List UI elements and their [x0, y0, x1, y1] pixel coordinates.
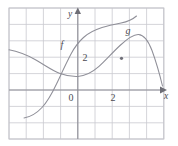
x-axis-label: x: [163, 91, 169, 101]
intersection-point-marker: [120, 57, 123, 60]
graph-canvas: y x 0 2 2 f g: [0, 0, 178, 146]
origin-label: 0: [69, 92, 74, 103]
math-graph-figure: y x 0 2 2 f g: [0, 0, 178, 146]
curve-g: [24, 16, 137, 118]
y-axis-label: y: [67, 9, 73, 19]
x-axis-tick-label-2: 2: [111, 92, 116, 103]
labels-group: y x 0 2 2 f g: [61, 9, 169, 103]
grid-group: [9, 8, 164, 139]
curve-label-g: g: [126, 25, 131, 36]
y-axis-tick-label-2: 2: [83, 52, 88, 63]
